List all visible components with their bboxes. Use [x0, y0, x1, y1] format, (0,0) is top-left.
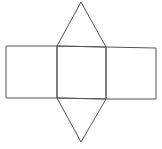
top-triangle [57, 2, 106, 47]
right-square [106, 47, 156, 99]
bottom-triangle [57, 98, 106, 142]
left-square [6, 46, 57, 98]
center-square [57, 46, 106, 99]
prism-net-diagram [0, 0, 162, 149]
